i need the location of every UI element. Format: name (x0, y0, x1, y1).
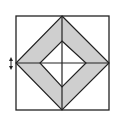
double-arrow-icon (9, 57, 13, 70)
diamond-in-square-diagram (0, 0, 118, 119)
